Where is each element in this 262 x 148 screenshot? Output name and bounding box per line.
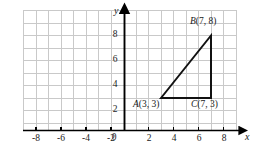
coordinate-plane-figure: -8 -6 -4 -2 2 4 6 8 0 2 4 6 8 x y A(3, 3…	[0, 0, 262, 148]
y-tick-label-2: 2	[109, 105, 121, 115]
vertex-b-coords: (7, 8)	[196, 16, 217, 26]
x-tick-label-6: 6	[189, 134, 209, 144]
y-axis-label: y	[114, 6, 118, 16]
vertex-label-a: A(3, 3)	[133, 100, 159, 110]
vertex-a-coords: (3, 3)	[139, 99, 160, 109]
grid-vertical-lines	[24, 10, 237, 130]
plot-canvas	[0, 0, 262, 148]
x-tick-label-8: 8	[214, 134, 234, 144]
y-tick-label-8: 8	[109, 30, 121, 40]
x-tick-label-2: 2	[139, 134, 159, 144]
origin-label: 0	[108, 133, 120, 143]
y-tick-label-6: 6	[109, 55, 121, 65]
x-axis-label: x	[245, 132, 249, 142]
vertex-label-c: C(7, 3)	[191, 100, 218, 110]
x-tick-label-neg4: -4	[76, 134, 96, 144]
vertex-c-coords: (7, 3)	[197, 99, 218, 109]
x-tick-label-neg6: -6	[51, 134, 71, 144]
vertex-label-b: B(7, 8)	[190, 17, 216, 27]
x-axis-ticks	[36, 127, 224, 131]
y-tick-label-4: 4	[109, 80, 121, 90]
x-tick-label-neg8: -8	[26, 134, 46, 144]
x-tick-label-4: 4	[164, 134, 184, 144]
